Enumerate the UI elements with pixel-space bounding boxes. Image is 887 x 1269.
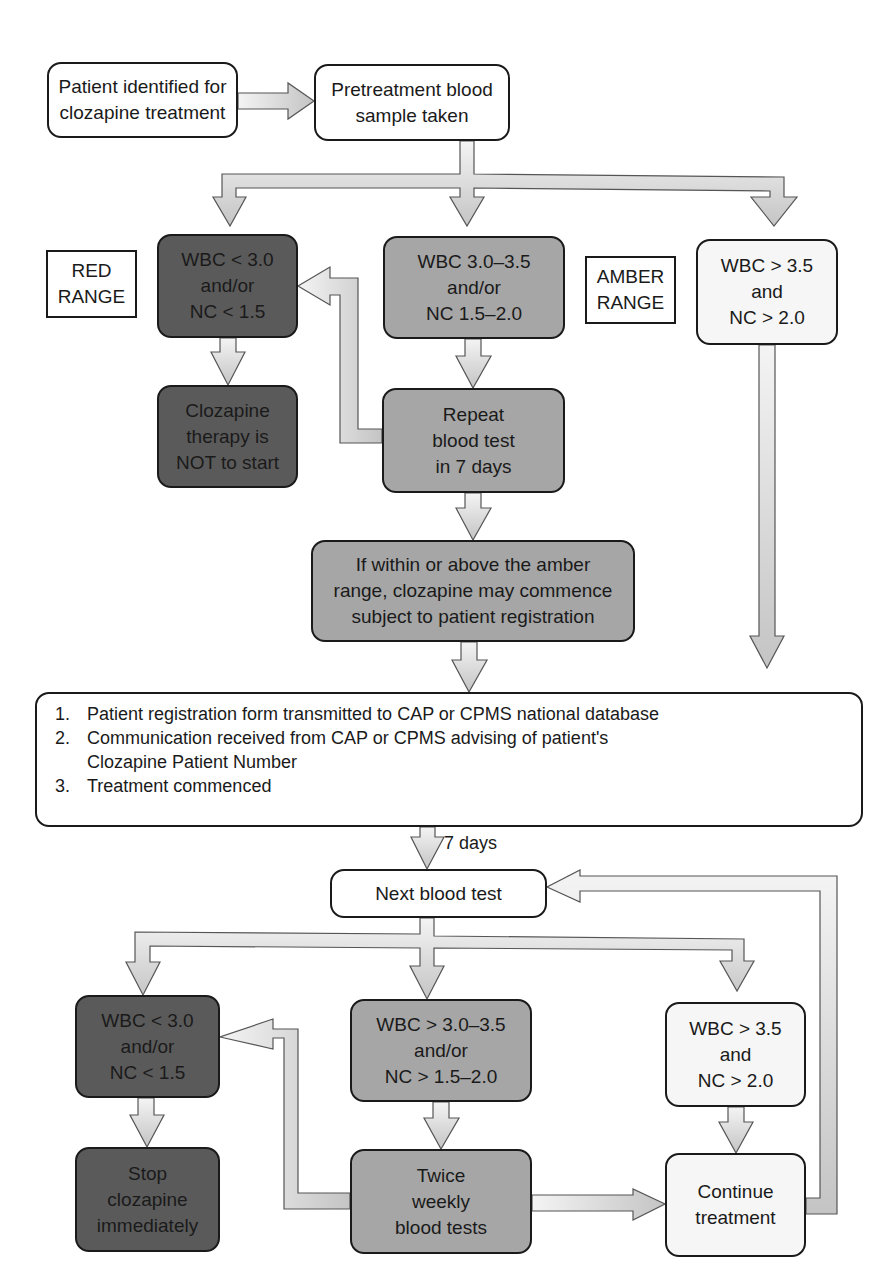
node-pretreatment-sample: Pretreatment blood sample taken bbox=[314, 64, 510, 141]
arrow-down-icon bbox=[424, 1102, 459, 1149]
node-repeat-blood-test: Repeat blood test in 7 days bbox=[382, 388, 565, 493]
red-range-label: RED RANGE bbox=[46, 250, 137, 318]
arrow-left-loop-icon bbox=[298, 267, 382, 443]
interval-label: 7 days bbox=[444, 833, 497, 854]
node-monitoring-green: WBC > 3.5 and NC > 2.0 bbox=[665, 1002, 806, 1107]
node-twice-weekly: Twice weekly blood tests bbox=[350, 1149, 532, 1254]
node-next-blood-test: Next blood test bbox=[330, 869, 547, 918]
arrow-down-icon bbox=[452, 642, 487, 692]
arrow-split-icon bbox=[126, 918, 754, 999]
arrow-right-icon bbox=[238, 83, 314, 119]
arrow-down-icon bbox=[456, 493, 491, 540]
arrow-left-loop-icon bbox=[220, 1019, 350, 1209]
node-monitoring-red: WBC < 3.0 and/or NC < 1.5 bbox=[75, 995, 220, 1098]
node-pretreatment-amber: WBC 3.0–3.5 and/or NC 1.5–2.0 bbox=[383, 236, 565, 339]
node-stop-clozapine: Stop clozapine immediately bbox=[75, 1147, 220, 1252]
amber-range-label: AMBER RANGE bbox=[585, 256, 676, 324]
registration-step: 1. Patient registration form transmitted… bbox=[55, 702, 851, 726]
arrow-down-icon bbox=[411, 827, 444, 869]
node-pretreatment-red: WBC < 3.0 and/or NC < 1.5 bbox=[157, 234, 298, 338]
node-registration-steps: 1. Patient registration form transmitted… bbox=[35, 692, 863, 827]
arrow-down-icon bbox=[130, 1098, 164, 1147]
node-patient-identified: Patient identified for clozapine treatme… bbox=[47, 62, 238, 138]
arrow-down-icon bbox=[456, 339, 491, 388]
arrow-down-icon bbox=[719, 1107, 753, 1153]
node-amber-followup: If within or above the amber range, cloz… bbox=[311, 540, 635, 642]
arrow-down-long-icon bbox=[750, 345, 784, 668]
registration-step-continuation: Clozapine Patient Number bbox=[55, 750, 851, 774]
node-continue-treatment: Continue treatment bbox=[665, 1153, 806, 1257]
arrow-down-icon bbox=[211, 338, 245, 385]
node-monitoring-amber: WBC > 3.0–3.5 and/or NC > 1.5–2.0 bbox=[350, 999, 532, 1102]
node-pretreatment-green: WBC > 3.5 and NC > 2.0 bbox=[696, 239, 838, 345]
node-not-to-start: Clozapine therapy is NOT to start bbox=[157, 385, 298, 488]
registration-step: 2. Communication received from CAP or CP… bbox=[55, 726, 851, 750]
registration-step: 3. Treatment commenced bbox=[55, 774, 851, 798]
arrow-right-icon bbox=[532, 1189, 665, 1220]
arrow-split-icon bbox=[213, 141, 797, 226]
